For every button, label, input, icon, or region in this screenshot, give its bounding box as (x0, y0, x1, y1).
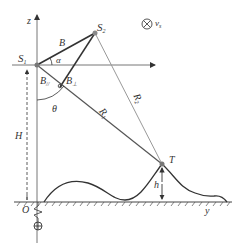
s1-label: S1 (18, 53, 27, 65)
alpha-arc (50, 58, 52, 65)
ground-symbol-icon (34, 222, 42, 230)
z-axis-label: z (27, 16, 31, 26)
velocity-label: vs (155, 19, 161, 29)
baseline-b (37, 33, 95, 65)
ground-spring (34, 202, 42, 222)
baseline-label: B (59, 38, 65, 48)
s2-label: S2 (97, 22, 106, 34)
platform-height-label: H (15, 131, 22, 141)
origin-label: O (22, 205, 29, 215)
y-axis-label: y (205, 206, 209, 216)
range-r2 (95, 33, 162, 164)
b-perpendicular-label: B⊥ (66, 76, 77, 87)
target-height-label: h (154, 180, 159, 190)
ground-line (14, 202, 232, 206)
b-parallel-label: B// (40, 76, 49, 87)
terrain-profile (44, 164, 227, 202)
target-label: T (169, 155, 175, 165)
alpha-label: α (56, 56, 61, 65)
target-point (160, 162, 165, 167)
bistatic-geometry-diagram (0, 0, 239, 243)
theta-label: θ (52, 104, 57, 114)
velocity-into-page-icon (142, 19, 152, 29)
s1-point (35, 63, 40, 68)
